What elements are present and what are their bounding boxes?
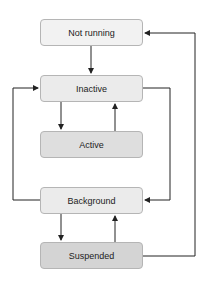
arrow-inactive-background: [143, 88, 170, 200]
state-suspended: Suspended: [40, 242, 143, 269]
state-not-running: Not running: [40, 19, 143, 46]
state-label: Background: [67, 196, 115, 206]
state-label: Not running: [68, 28, 115, 38]
arrow-background-inactive: [13, 88, 40, 200]
state-background: Background: [40, 187, 143, 214]
state-label: Active: [79, 140, 104, 150]
state-label: Suspended: [69, 251, 115, 261]
state-label: Inactive: [76, 84, 107, 94]
state-inactive: Inactive: [40, 75, 143, 102]
arrow-suspended-notrunning: [143, 33, 195, 256]
state-active: Active: [40, 131, 143, 158]
